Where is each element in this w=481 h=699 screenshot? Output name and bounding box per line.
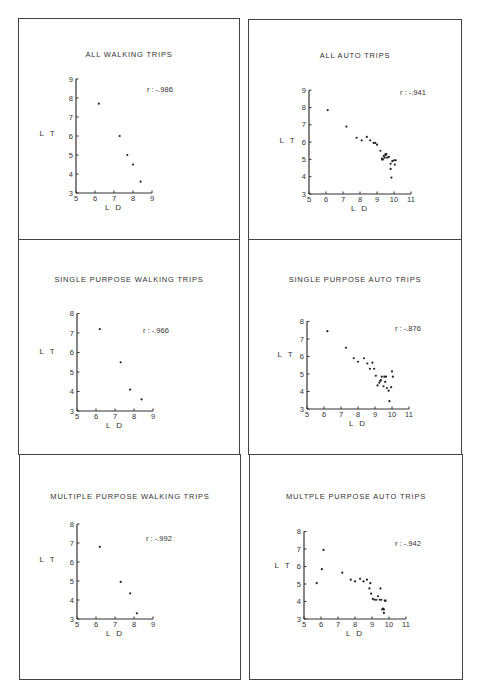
data-point [374, 142, 376, 144]
correlation-label: r : -.986 [147, 85, 173, 94]
y-tick-label: 9 [69, 75, 73, 84]
data-point [392, 376, 394, 378]
y-tick-label: 5 [302, 155, 306, 164]
y-axis-label: L T [279, 136, 296, 145]
data-point [385, 600, 387, 602]
y-tick-label: 8 [69, 94, 73, 103]
data-point [383, 612, 385, 614]
data-point [136, 612, 138, 614]
data-point [385, 153, 387, 155]
x-tick-label: 9 [151, 620, 155, 629]
data-point [353, 357, 355, 359]
data-point [390, 168, 392, 170]
y-tick-label: 6 [302, 138, 306, 147]
data-point [383, 608, 385, 610]
x-axis-label: L D [351, 204, 369, 213]
data-point [363, 357, 365, 359]
data-point [345, 347, 347, 349]
data-point [395, 159, 397, 161]
y-tick-label: 7 [300, 335, 304, 344]
x-tick-label: 10 [388, 410, 396, 419]
y-tick-label: 9 [302, 86, 306, 95]
data-point [379, 587, 381, 589]
data-point [119, 135, 121, 137]
data-point [375, 375, 377, 377]
data-point [381, 157, 383, 159]
data-point [361, 139, 363, 141]
y-tick-label: 7 [70, 329, 74, 338]
x-tick-label: 8 [132, 620, 136, 629]
data-point [379, 150, 381, 152]
y-tick-label: 4 [297, 597, 301, 606]
data-point [366, 362, 368, 364]
correlation-label: r : -.876 [395, 324, 421, 333]
x-tick-label: 9 [370, 620, 374, 629]
y-tick-label: 5 [69, 151, 73, 160]
data-point [369, 582, 371, 584]
y-tick-label: 8 [300, 317, 304, 326]
x-tick-label: 10 [390, 195, 398, 204]
data-point [354, 580, 356, 582]
data-point [376, 384, 378, 386]
data-point [370, 593, 372, 595]
x-tick-label: 11 [407, 195, 415, 204]
y-tick-label: 5 [70, 577, 74, 586]
y-tick-label: 7 [69, 113, 73, 122]
y-tick-label: 4 [302, 172, 306, 181]
data-point [141, 398, 143, 400]
y-tick-label: 8 [302, 103, 306, 112]
data-point [356, 137, 358, 139]
y-tick-label: 6 [70, 348, 74, 357]
data-point [132, 163, 134, 165]
y-axis-label: L T [39, 555, 56, 564]
data-point [390, 163, 392, 165]
y-tick-label: 7 [297, 545, 301, 554]
x-tick-label: 6 [324, 195, 328, 204]
data-point [129, 388, 131, 390]
data-point [371, 362, 373, 364]
y-tick-label: 7 [302, 120, 306, 129]
y-tick-label: 7 [70, 539, 74, 548]
x-tick-label: 8 [353, 620, 357, 629]
data-point [350, 579, 352, 581]
x-tick-label: 6 [94, 412, 98, 421]
data-point [386, 387, 388, 389]
x-axis-label: L D [106, 421, 124, 430]
y-tick-label: 3 [300, 405, 304, 414]
figure-caption [0, 689, 481, 699]
x-tick-label: 8 [356, 410, 360, 419]
y-tick-label: 8 [297, 527, 301, 536]
y-tick-label: 5 [300, 370, 304, 379]
data-point [388, 400, 390, 402]
data-point [140, 181, 142, 183]
x-tick-label: 9 [373, 410, 377, 419]
data-point [390, 386, 392, 388]
y-tick-label: 4 [300, 387, 304, 396]
y-tick-label: 6 [70, 558, 74, 567]
data-point [129, 592, 131, 594]
correlation-label: r : -.966 [143, 326, 169, 335]
x-axis-label: L D [346, 629, 364, 638]
data-point [321, 568, 323, 570]
data-point [380, 599, 382, 601]
y-tick-label: 3 [302, 190, 306, 199]
x-tick-label: 5 [302, 620, 306, 629]
data-point [369, 368, 371, 370]
data-point [366, 579, 368, 581]
y-axis-label: L T [39, 347, 56, 356]
x-tick-label: 8 [131, 194, 135, 203]
data-point [99, 546, 101, 548]
correlation-label: r : -.941 [400, 88, 426, 97]
data-point [99, 328, 101, 330]
y-axis-label: L T [277, 350, 294, 359]
x-tick-label: 7 [113, 620, 117, 629]
x-tick-label: 6 [94, 620, 98, 629]
y-tick-label: 3 [70, 407, 74, 416]
data-point [391, 370, 393, 372]
y-axis-label: L T [39, 129, 56, 138]
y-tick-label: 3 [70, 615, 74, 624]
data-point [120, 361, 122, 363]
data-point [341, 572, 343, 574]
data-point [316, 582, 318, 584]
correlation-label: r : -.942 [395, 539, 421, 548]
